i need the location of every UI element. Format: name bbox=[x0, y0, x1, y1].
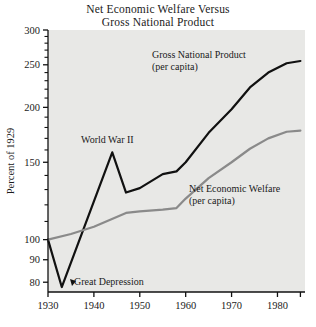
world-war-2-label: World War II bbox=[81, 134, 134, 145]
y-tick-label: 250 bbox=[24, 59, 40, 70]
gnp-label: Gross National Product bbox=[152, 49, 246, 60]
y-tick-label: 90 bbox=[30, 254, 41, 265]
chart-container: Net Economic Welfare Versus Gross Nation… bbox=[0, 0, 316, 327]
x-tick-label: 1960 bbox=[175, 300, 196, 311]
x-tick-label: 1950 bbox=[129, 300, 150, 311]
x-tick-label: 1940 bbox=[83, 300, 104, 311]
x-tick-label: 1980 bbox=[267, 300, 288, 311]
y-tick-label: 300 bbox=[24, 25, 40, 36]
y-tick-label: 200 bbox=[24, 102, 40, 113]
x-tick-label: 1930 bbox=[38, 300, 59, 311]
y-axis-label: Percent of 1929 bbox=[5, 128, 16, 194]
great-depression-label: Great Depression bbox=[74, 276, 144, 287]
chart-svg: 8090100150200250300193019401950196019701… bbox=[0, 0, 316, 327]
new-label: (per capita) bbox=[189, 195, 235, 207]
new-label: Net Economic Welfare bbox=[189, 183, 281, 194]
y-tick-label: 100 bbox=[24, 234, 40, 245]
y-tick-label: 150 bbox=[24, 157, 40, 168]
y-tick-label: 80 bbox=[30, 277, 41, 288]
gnp-label: (per capita) bbox=[152, 61, 198, 73]
x-tick-label: 1970 bbox=[221, 300, 242, 311]
